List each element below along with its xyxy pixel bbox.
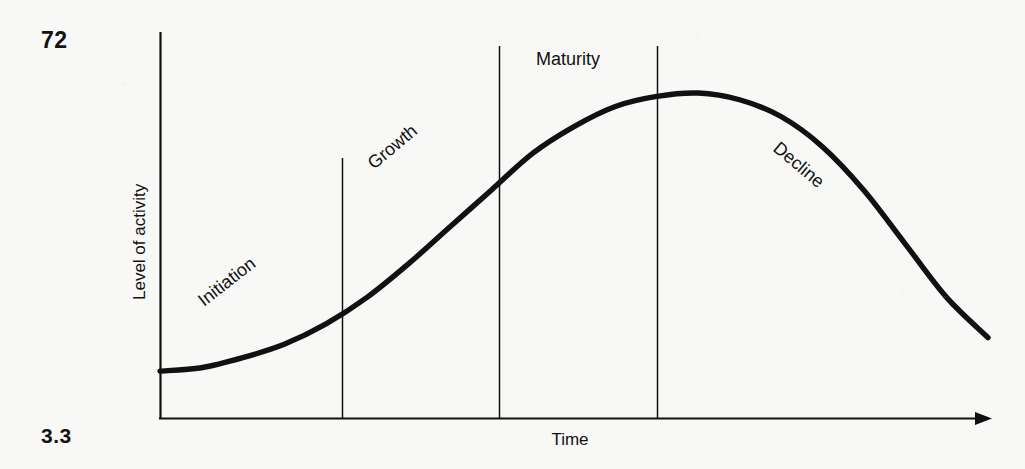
- life-cycle-curve: [160, 93, 988, 371]
- x-axis-arrow-icon: [975, 412, 992, 425]
- phase-label-initiation: Initiation: [194, 253, 259, 310]
- phase-label-growth: Growth: [364, 120, 421, 173]
- x-axis-label: Time: [551, 430, 588, 449]
- product-life-cycle-chart: Level of activity Time Initiation Growth…: [0, 0, 1025, 469]
- scanned-page: 72 3.3 Level of activity Time Initiation…: [0, 0, 1025, 469]
- phase-label-maturity: Maturity: [536, 49, 600, 69]
- y-axis-label: Level of activity: [130, 183, 149, 300]
